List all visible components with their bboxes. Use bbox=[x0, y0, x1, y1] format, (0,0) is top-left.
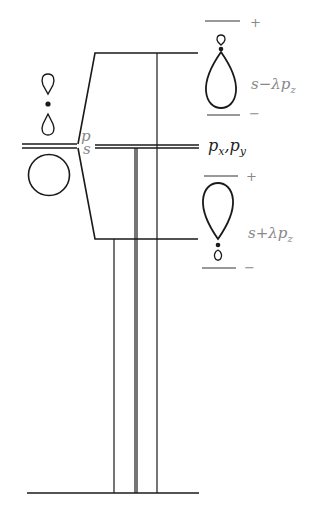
pxpy-label: px,py bbox=[208, 138, 246, 157]
bonding-label-main: s+λp bbox=[248, 224, 287, 242]
px-label: p bbox=[208, 136, 218, 155]
anti-small-lobe-icon bbox=[217, 35, 225, 45]
upper-connector bbox=[78, 53, 198, 144]
bonding-label-sub: z bbox=[287, 233, 292, 244]
lower-connector bbox=[78, 148, 198, 239]
bond-large-lobe-icon bbox=[203, 183, 233, 239]
orbital-diagram: p s + − s−λpz px,py + − s+λpz bbox=[0, 0, 319, 507]
bond-small-lobe-icon bbox=[214, 250, 221, 260]
antibonding-label: s−λpz bbox=[251, 77, 296, 95]
bond-nucleus-icon bbox=[216, 243, 221, 248]
antibonding-label-sub: z bbox=[290, 84, 295, 95]
anti-minus-sign: − bbox=[249, 107, 260, 120]
anti-large-lobe-icon bbox=[206, 52, 236, 108]
p-orbital-upper-lobe-icon bbox=[42, 74, 54, 94]
py-sub: y bbox=[240, 145, 246, 158]
antibonding-label-main: s−λp bbox=[251, 75, 290, 93]
bonding-label: s+λpz bbox=[248, 226, 293, 244]
bond-minus-sign: − bbox=[244, 261, 255, 274]
s-orbital-icon bbox=[29, 155, 70, 196]
bond-plus-sign: + bbox=[246, 170, 257, 183]
left-s-label: s bbox=[83, 142, 91, 157]
p-orbital-lower-lobe-icon bbox=[42, 114, 54, 135]
py-label: ,p bbox=[224, 136, 239, 155]
nucleus-dot-icon bbox=[45, 101, 50, 106]
anti-plus-sign: + bbox=[250, 16, 261, 29]
